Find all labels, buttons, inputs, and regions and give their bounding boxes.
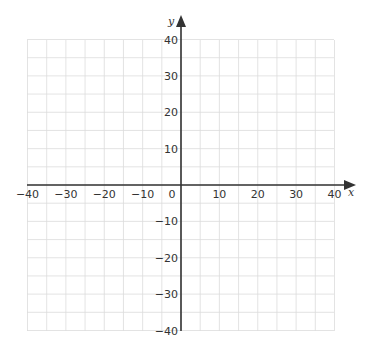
x-tick-label: −20 [93,188,116,201]
y-tick-label: −20 [155,252,178,265]
x-tick-label: 0 [169,188,176,201]
coordinate-grid: −40−30−20−10010203040−40−30−20−101020304… [0,0,379,354]
x-tick-label: −40 [16,188,39,201]
x-axis-label: x [348,186,355,199]
axes [27,15,356,331]
x-tick-label: −10 [131,188,154,201]
y-tick-label: −10 [155,215,178,228]
x-tick-label: 30 [289,188,303,201]
y-tick-label: 10 [164,143,178,156]
y-tick-label: −30 [155,288,178,301]
y-axis-arrow-icon [176,15,186,27]
x-tick-label: −30 [54,188,77,201]
x-tick-label: 10 [212,188,226,201]
y-tick-label: 40 [164,34,178,47]
y-tick-label: −40 [155,325,178,338]
x-tick-label: 20 [251,188,265,201]
y-tick-label: 30 [164,70,178,83]
x-tick-label: 40 [328,188,342,201]
y-tick-label: 20 [164,106,178,119]
y-axis-label: y [167,15,175,28]
